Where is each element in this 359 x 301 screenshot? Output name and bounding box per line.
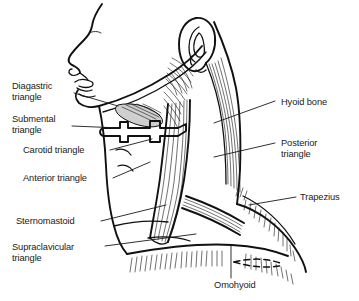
label-supraclavicular-line2: triangle: [12, 253, 42, 263]
leader-submental: [72, 126, 120, 128]
label-group-left: Diagastric triangle Submental triangle C…: [12, 81, 87, 263]
label-trapezius: Trapezius: [300, 192, 340, 202]
label-submental-line2: triangle: [12, 125, 42, 135]
label-sternomastoid: Sternomastoid: [16, 216, 75, 226]
label-carotid: Carotid triangle: [23, 145, 84, 155]
label-submental-line1: Submental: [12, 114, 56, 124]
leader-anterior: [113, 162, 150, 178]
ear-icon: [179, 18, 215, 72]
label-digastric-line1: Diagastric: [12, 81, 53, 91]
label-posterior-line1: Posterior: [281, 138, 317, 148]
label-posterior-line2: triangle: [281, 149, 311, 159]
leader-carotid: [110, 139, 152, 150]
anatomy-figure: Diagastric triangle Submental triangle C…: [0, 0, 359, 301]
label-supraclavicular-line1: Supraclavicular: [12, 242, 74, 252]
leader-posterior: [214, 143, 275, 157]
leader-trapezius: [249, 197, 296, 205]
label-group-bottom: Omohyoid: [214, 280, 256, 290]
label-omohyoid: Omohyoid: [214, 280, 256, 290]
trapezius-muscle: [206, 22, 240, 204]
head-profile: [69, 4, 102, 107]
label-digastric-line2: triangle: [12, 92, 42, 102]
label-group-right: Hyoid bone Posterior triangle Trapezius: [281, 97, 340, 202]
label-anterior: Anterior triangle: [23, 173, 87, 183]
label-hyoid-bone: Hyoid bone: [281, 97, 327, 107]
digastric-muscle: [116, 104, 163, 127]
anatomy-illustration: Diagastric triangle Submental triangle C…: [0, 0, 359, 301]
omohyoid-muscle: [182, 196, 244, 235]
